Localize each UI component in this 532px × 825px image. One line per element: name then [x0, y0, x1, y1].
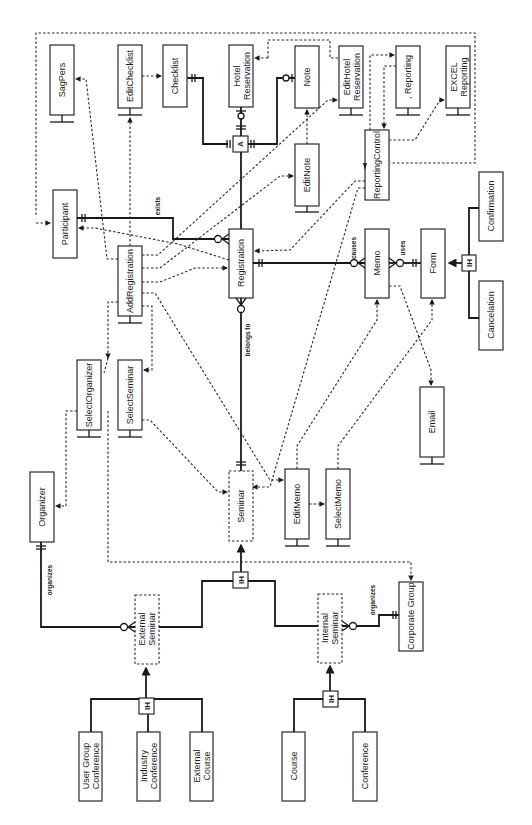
- rel-participant-registration: exists: [77, 196, 229, 244]
- editnote-label: EditNote: [302, 158, 312, 193]
- edithotel-label-2: Reservation: [352, 53, 362, 101]
- dep-selectorganizer-organizer: [56, 411, 77, 506]
- entity-seminar[interactable]: Seminar: [229, 471, 253, 541]
- registration-label: Registration: [236, 239, 246, 287]
- entity-excel-reporting[interactable]: EXCEL Reporting: [446, 46, 470, 115]
- corporate-group-label: Corporate Group: [406, 582, 416, 650]
- entity-memo[interactable]: Memo: [365, 229, 389, 298]
- aggregation-symbol: A: [233, 136, 248, 152]
- entity-editchecklist[interactable]: EditChecklist: [118, 45, 142, 115]
- entity-industry-conference[interactable]: Industry Conference: [137, 732, 160, 801]
- causes-label: causes: [350, 237, 357, 259]
- external-course-label-2: Course: [202, 751, 212, 780]
- participant-label: Participant: [60, 202, 70, 245]
- rel-hotel-aggregation: [236, 107, 246, 136]
- rel-organizer-external-seminar: organizes: [36, 542, 135, 632]
- reporting-label: , Reporting: [403, 55, 413, 99]
- dep-addreg-selectorganizer: [108, 302, 118, 358]
- checklist-label: Checklist: [170, 57, 180, 94]
- editmemo-label: EditMemo: [292, 484, 302, 525]
- course-label: Course: [289, 751, 299, 780]
- inheritance-external-seminar: IH: [91, 668, 202, 732]
- entity-reporting[interactable]: , Reporting: [396, 46, 420, 115]
- external-seminar-label-2: Seminar: [147, 612, 157, 646]
- hotel-reservation-label-1: Hotel: [232, 65, 242, 86]
- dep-addreg-selectseminar: [142, 306, 152, 370]
- rel-memo-form: uses: [389, 240, 421, 268]
- entity-sagpers[interactable]: SagPers: [50, 45, 74, 122]
- entity-hotel-reservation[interactable]: Hotel Reservation: [229, 45, 253, 107]
- entity-user-group-conference[interactable]: User Group Conference: [79, 732, 102, 801]
- rel-aggregation-note: [248, 74, 295, 148]
- organizer-label: Organizer: [37, 487, 47, 527]
- entity-selectmemo[interactable]: SelectMemo: [326, 469, 350, 546]
- entity-external-course[interactable]: External Course: [190, 732, 213, 801]
- inheritance-form: IH: [449, 208, 479, 318]
- ugc-label-2: Conference: [91, 743, 101, 790]
- entity-reportingcontrol[interactable]: ReportingControl: [363, 130, 389, 200]
- entity-confirmation[interactable]: Confirmation: [479, 172, 503, 241]
- confirmation-label: Confirmation: [486, 180, 496, 231]
- ih-label-form: IH: [465, 259, 474, 267]
- entity-conference[interactable]: Conference: [353, 732, 377, 801]
- rel-internal-corporate: organizes: [342, 584, 399, 631]
- reportingcontrol-label: ReportingControl: [372, 131, 382, 199]
- form-label: Form: [428, 253, 438, 274]
- inheritance-internal-seminar: IH: [294, 666, 365, 732]
- cancelation-label: Cancelation: [486, 291, 496, 339]
- entity-note[interactable]: Note: [295, 46, 319, 108]
- er-diagram: SagPers EditChecklist Checklist Hotel Re…: [0, 0, 532, 825]
- dep-addreg-registration: [142, 268, 227, 282]
- belongs-to-label: belongs to: [244, 324, 252, 357]
- entity-participant[interactable]: Participant: [53, 190, 77, 258]
- dep-editmemo-memo: [297, 300, 377, 469]
- organizes-internal-label: organizes: [369, 584, 377, 615]
- dep-memo-email: [389, 286, 431, 385]
- dep-addreg-corporate: [108, 411, 411, 580]
- entity-edithotel-reservation[interactable]: EditHotel Reservation: [339, 46, 363, 115]
- excel-label-2: Reporting: [459, 57, 469, 96]
- rel-registration-seminar: belongs to: [236, 298, 252, 471]
- entity-checklist[interactable]: Checklist: [163, 45, 187, 107]
- internal-seminar-label-1: Internal: [320, 613, 330, 643]
- ih-label-external: IH: [143, 702, 152, 710]
- industry-conf-label-2: Conference: [149, 743, 159, 790]
- entity-corporate-group[interactable]: Corporate Group: [399, 582, 423, 651]
- hotel-reservation-label-2: Reservation: [242, 52, 252, 100]
- entity-course[interactable]: Course: [282, 732, 305, 801]
- entity-editmemo[interactable]: EditMemo: [285, 469, 309, 546]
- rel-checklist-aggregation: [187, 74, 230, 148]
- external-course-label-1: External: [192, 749, 202, 782]
- entity-selectorganizer[interactable]: SelectOrganizer: [77, 360, 101, 437]
- dep-addreg-editnote: [142, 176, 293, 268]
- entity-external-seminar[interactable]: External Seminar: [135, 595, 159, 664]
- entity-editnote[interactable]: EditNote: [295, 144, 319, 212]
- inheritance-seminar: IH: [159, 545, 318, 627]
- exists-label: exists: [154, 196, 161, 215]
- entity-organizer[interactable]: Organizer: [30, 472, 54, 542]
- memo-label: Memo: [372, 250, 382, 275]
- addregistration-label: AddRegistration: [125, 249, 135, 313]
- dep-reporting-reportingcontrol: [384, 66, 396, 128]
- entity-registration[interactable]: Registration: [229, 229, 253, 298]
- entity-email[interactable]: Email: [420, 387, 444, 464]
- dep-selectseminar-seminar: [142, 420, 227, 492]
- ih-label-internal: IH: [327, 695, 336, 703]
- entity-internal-seminar[interactable]: Internal Seminar: [318, 594, 342, 663]
- entity-form[interactable]: Form: [421, 229, 445, 298]
- dep-addreg-editmemo: [142, 293, 283, 480]
- sagpers-label: SagPers: [57, 62, 67, 97]
- rel-registration-memo: causes: [253, 237, 365, 268]
- excel-label-1: EXCEL: [449, 62, 459, 92]
- entity-cancelation[interactable]: Cancelation: [479, 281, 503, 350]
- entity-selectseminar[interactable]: SelectSeminar: [118, 360, 142, 437]
- ugc-label-1: User Group: [81, 743, 91, 790]
- selectorganizer-label: SelectOrganizer: [84, 363, 94, 428]
- dep-selectmemo-form: [338, 300, 432, 469]
- industry-conf-label-1: Industry: [139, 749, 149, 782]
- entity-addregistration[interactable]: AddRegistration: [118, 246, 142, 323]
- editchecklist-label: EditChecklist: [125, 49, 135, 102]
- email-label: Email: [427, 411, 437, 434]
- selectseminar-label: SelectSeminar: [125, 366, 135, 425]
- aggregation-label: A: [236, 141, 245, 147]
